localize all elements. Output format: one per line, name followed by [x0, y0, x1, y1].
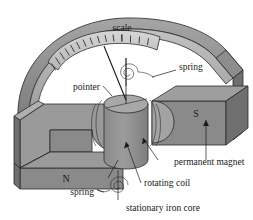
north-pole-label: N: [62, 173, 69, 184]
label-permanent-magnet: permanent magnet: [174, 157, 245, 167]
label-pointer: pointer: [73, 82, 101, 92]
permanent-magnet-south: S: [152, 86, 248, 145]
label-spring-bottom: spring: [70, 187, 94, 197]
coil-cylinder-body: [104, 104, 148, 169]
galvanometer-figure: N S: [0, 0, 253, 220]
label-rotating-coil: rotating coil: [144, 178, 191, 188]
label-stationary-iron-core: stationary iron core: [126, 203, 200, 213]
magnet-north-front-face: [20, 168, 123, 189]
label-spring-top: spring: [179, 62, 203, 72]
south-pole-label: S: [193, 108, 199, 119]
label-scale: scale: [113, 23, 132, 33]
magnet-north-back-edge: [14, 116, 20, 168]
diagram-canvas: N S: [0, 0, 253, 220]
